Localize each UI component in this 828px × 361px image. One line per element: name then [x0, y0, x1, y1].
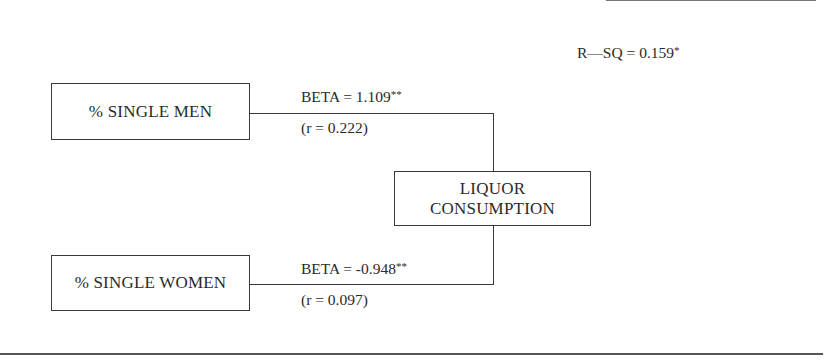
node-single-women: % SINGLE WOMEN	[51, 255, 250, 311]
top-rule	[606, 0, 816, 1]
node-liquor-line2: CONSUMPTION	[430, 199, 555, 219]
edge-women-beta-significance: **	[396, 260, 407, 272]
node-single-men-label: % SINGLE MEN	[89, 102, 212, 122]
edge-men-beta-text: BETA = 1.109	[301, 88, 391, 105]
edge-women-horizontal	[250, 284, 494, 285]
edge-women-r: (r = 0.097)	[301, 291, 368, 309]
node-liquor-line1: LIQUOR	[460, 179, 525, 199]
node-single-women-label: % SINGLE WOMEN	[75, 273, 227, 293]
edge-men-horizontal	[250, 113, 494, 114]
node-single-men: % SINGLE MEN	[51, 83, 250, 140]
edge-women-vertical	[493, 226, 494, 284]
edge-women-beta-text: BETA = -0.948	[301, 260, 396, 277]
edge-men-vertical	[493, 113, 494, 171]
edge-men-beta: BETA = 1.109**	[301, 88, 402, 106]
edge-women-beta: BETA = -0.948**	[301, 260, 407, 278]
r-squared-text: R—SQ = 0.159	[577, 44, 674, 61]
r-squared-label: R—SQ = 0.159*	[577, 44, 680, 62]
node-liquor-consumption: LIQUOR CONSUMPTION	[394, 171, 591, 226]
bottom-rule	[0, 353, 823, 355]
edge-men-beta-significance: **	[391, 88, 402, 100]
edge-men-r: (r = 0.222)	[301, 119, 368, 137]
r-squared-significance: *	[674, 44, 680, 56]
